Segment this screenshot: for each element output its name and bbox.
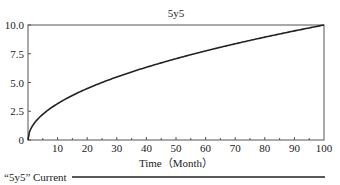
x-tick-label: 40 [141,142,153,154]
series-line-5y5-current [28,25,324,140]
x-tick-label: 90 [289,142,301,154]
y-tick-label: 0 [19,134,25,146]
plot-frame [28,25,324,140]
x-tick-label: 60 [200,142,212,154]
y-axis: 02.55.07.510.0 [5,19,31,146]
x-axis-label: Time（Month） [139,157,213,169]
x-tick-label: 20 [82,142,94,154]
x-tick-label: 30 [111,142,123,154]
x-tick-label: 70 [230,142,242,154]
y-tick-label: 7.5 [10,48,24,60]
y-tick-label: 5.0 [10,77,24,89]
y-tick-label: 2.5 [10,105,24,117]
x-tick-label: 80 [259,142,271,154]
x-tick-label: 10 [52,142,64,154]
x-tick-label: 100 [316,142,333,154]
y-tick-label: 10.0 [5,19,25,31]
x-tick-label: 50 [171,142,183,154]
legend-label: “5y5” Current [4,171,67,183]
chart: 5y5 02.55.07.510.0 102030405060708090100… [0,0,340,185]
chart-title: 5y5 [168,7,185,19]
